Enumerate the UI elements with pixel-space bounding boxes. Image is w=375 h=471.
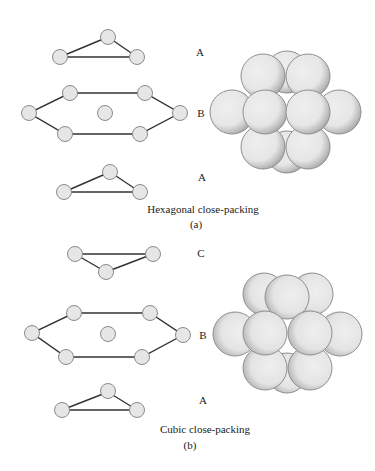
ccp-layer-a (62, 392, 137, 410)
hcp-sublabel: (a) (190, 218, 202, 231)
hcp-layer-a-bottom (64, 172, 140, 192)
ccp-layer-a-atoms (55, 384, 145, 418)
hcp-layer-a-top (60, 37, 137, 57)
ccp-caption: Cubic close-packing (160, 423, 250, 436)
ccp-sphere-cluster (213, 273, 362, 393)
hcp-sphere-cluster (210, 51, 361, 173)
ccp-layer-c (75, 254, 153, 272)
ccp-layer-b-atoms (25, 306, 191, 365)
hcp-label-layer-2: B (197, 108, 204, 119)
ccp-label-layer-1: C (197, 248, 204, 259)
hcp-label-layer-3: A (198, 172, 206, 183)
hcp-layer-b-atoms (22, 86, 188, 142)
close-packing-diagram (0, 0, 375, 471)
ccp-label-layer-3: A (199, 395, 207, 406)
ccp-label-layer-2: B (199, 330, 206, 341)
ccp-sublabel: (b) (184, 439, 197, 452)
ccp-layer-c-atoms (68, 247, 161, 280)
hcp-layer-a-bottom-atoms (57, 165, 148, 200)
hcp-layer-a-top-atoms (53, 30, 145, 65)
hcp-label-layer-1: A (196, 47, 204, 58)
hcp-caption: Hexagonal close-packing (147, 203, 258, 216)
